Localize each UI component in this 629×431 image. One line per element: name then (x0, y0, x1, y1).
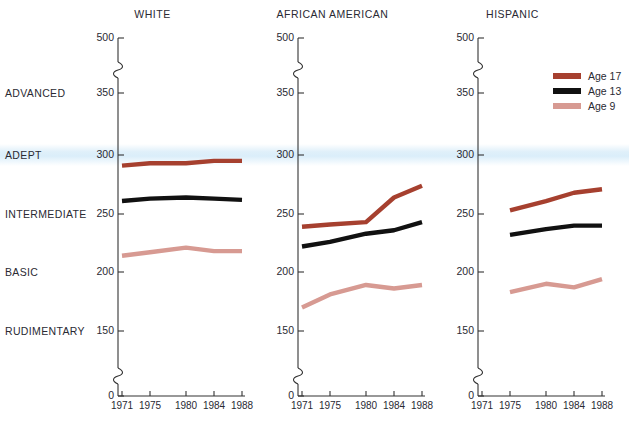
y-axis (294, 38, 303, 396)
x-axis (298, 391, 425, 396)
x-tick-label: 1984 (563, 400, 585, 411)
x-axis (118, 391, 245, 396)
y-tick-label: 350 (240, 86, 294, 98)
y-tick-label: 500 (240, 31, 294, 43)
legend-swatch-icon (553, 103, 581, 109)
series-line-age-17 (510, 189, 602, 210)
y-axis (474, 38, 483, 396)
y-tick-label: 250 (420, 207, 474, 219)
series-line-age-17 (122, 161, 242, 166)
y-tick-label: 150 (60, 324, 114, 336)
y-tick-label: 300 (420, 148, 474, 160)
y-tick-label: 300 (240, 148, 294, 160)
x-tick-label: 1975 (319, 400, 341, 411)
y-tick-label: 300 (60, 148, 114, 160)
y-tick-label: 200 (240, 265, 294, 277)
series-line-age-13 (510, 226, 602, 235)
y-axis (114, 38, 123, 396)
y-tick-label: 150 (240, 324, 294, 336)
level-label-adept: ADEPT (5, 149, 42, 161)
legend-swatch-icon (553, 88, 581, 94)
panel-hispanic: HISPANIC50035030025020015001971197519801… (420, 0, 605, 431)
y-tick-label: 150 (420, 324, 474, 336)
y-tick-label: 350 (60, 86, 114, 98)
legend-item-age-9[interactable]: Age 9 (553, 98, 621, 113)
x-tick-label: 1971 (111, 400, 133, 411)
legend-swatch-icon (553, 73, 581, 79)
y-tick-label: 250 (240, 207, 294, 219)
legend-label: Age 17 (588, 70, 621, 82)
y-tick-label: 250 (60, 207, 114, 219)
x-tick-label: 1980 (535, 400, 557, 411)
x-tick-label: 1975 (499, 400, 521, 411)
y-tick-label: 0 (240, 389, 294, 401)
level-label-advanced: ADVANCED (5, 87, 65, 99)
legend-item-age-17[interactable]: Age 17 (553, 68, 621, 83)
y-tick-label: 0 (420, 389, 474, 401)
series-line-age-9 (510, 279, 602, 292)
x-tick-label: 1984 (383, 400, 405, 411)
y-tick-label: 500 (420, 31, 474, 43)
series-line-age-9 (302, 285, 422, 307)
x-tick-label: 1975 (139, 400, 161, 411)
series-line-age-13 (122, 197, 242, 201)
y-tick-label: 200 (420, 265, 474, 277)
legend-label: Age 9 (588, 100, 615, 112)
legend-label: Age 13 (588, 85, 621, 97)
y-tick-label: 0 (60, 389, 114, 401)
y-tick-label: 200 (60, 265, 114, 277)
y-tick-label: 500 (60, 31, 114, 43)
x-axis (478, 391, 605, 396)
x-tick-label: 1988 (591, 400, 613, 411)
panel-african-american: AFRICAN AMERICAN500350300250200150019711… (240, 0, 425, 431)
chart-root: ADVANCEDADEPTINTERMEDIATEBASICRUDIMENTAR… (0, 0, 629, 431)
x-tick-label: 1980 (175, 400, 197, 411)
x-tick-label: 1971 (291, 400, 313, 411)
x-tick-label: 1984 (203, 400, 225, 411)
x-tick-label: 1971 (471, 400, 493, 411)
series-line-age-9 (122, 248, 242, 256)
series-line-age-17 (302, 186, 422, 227)
chart-legend: Age 17Age 13Age 9 (553, 68, 621, 113)
level-label-basic: BASIC (5, 266, 38, 278)
x-tick-label: 1980 (355, 400, 377, 411)
panel-white: WHITE50035030025020015001971197519801984… (60, 0, 245, 431)
y-tick-label: 350 (420, 86, 474, 98)
legend-item-age-13[interactable]: Age 13 (553, 83, 621, 98)
